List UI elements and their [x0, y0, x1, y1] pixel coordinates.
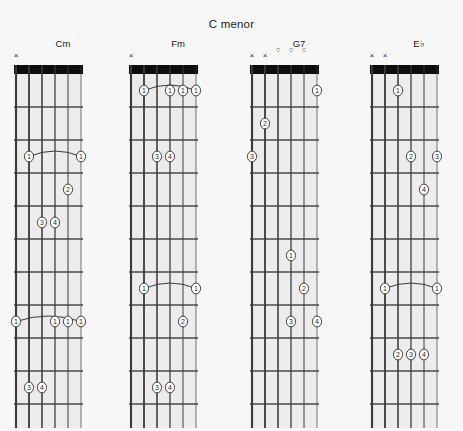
- finger-number: 3: [435, 153, 439, 160]
- finger-number: 1: [142, 285, 146, 292]
- chord-name-label: Fm: [123, 38, 233, 49]
- fretboard: 11234111134: [8, 64, 118, 428]
- finger-number: 1: [53, 318, 57, 325]
- finger-number: 1: [142, 87, 146, 94]
- string-state-markers: ×: [123, 51, 233, 65]
- finger-number: 4: [422, 351, 426, 358]
- finger-number: 4: [168, 384, 172, 391]
- chord-diagram: Cm×11234111134: [8, 38, 118, 428]
- finger-number: 1: [194, 87, 198, 94]
- finger-number: 4: [422, 186, 426, 193]
- finger-number: 1: [194, 285, 198, 292]
- finger-number: 1: [168, 87, 172, 94]
- nut: [14, 65, 83, 74]
- muted-string-icon: ×: [260, 51, 270, 61]
- muted-string-icon: ×: [11, 51, 21, 61]
- finger-number: 4: [315, 318, 319, 325]
- finger-number: 1: [14, 318, 18, 325]
- finger-number: 3: [409, 351, 413, 358]
- muted-string-icon: ×: [126, 51, 136, 61]
- string-state-markers: ××○○○: [244, 51, 354, 65]
- open-string-icon: ○: [273, 45, 283, 55]
- finger-number: 2: [66, 186, 70, 193]
- open-string-icon: ○: [286, 45, 296, 55]
- finger-number: 3: [40, 219, 44, 226]
- fretboard: 123411234: [364, 64, 463, 428]
- chord-diagram: Fm×11113411234: [123, 38, 233, 428]
- finger-number: 1: [181, 87, 185, 94]
- muted-string-icon: ×: [367, 51, 377, 61]
- open-string-icon: ○: [299, 45, 309, 55]
- finger-number: 2: [302, 285, 306, 292]
- fretboard: 11113411234: [123, 64, 233, 428]
- finger-number: 2: [181, 318, 185, 325]
- nut: [370, 65, 439, 74]
- finger-number: 4: [168, 153, 172, 160]
- finger-number: 1: [66, 318, 70, 325]
- finger-number: 1: [79, 318, 83, 325]
- finger-number: 3: [155, 384, 159, 391]
- nut: [129, 65, 198, 74]
- fretboard-face: [131, 74, 196, 428]
- string-state-markers: ××: [364, 51, 463, 65]
- nut: [250, 65, 319, 74]
- finger-number: 1: [435, 285, 439, 292]
- finger-number: 3: [250, 153, 254, 160]
- finger-number: 3: [289, 318, 293, 325]
- fretboard: 1231234: [244, 64, 354, 428]
- chord-diagram: E♭××123411234: [364, 38, 463, 428]
- fretboard-face: [16, 74, 81, 428]
- finger-number: 2: [409, 153, 413, 160]
- string-state-markers: ×: [8, 51, 118, 65]
- finger-number: 3: [155, 153, 159, 160]
- muted-string-icon: ×: [247, 51, 257, 61]
- finger-number: 1: [27, 153, 31, 160]
- finger-number: 1: [79, 153, 83, 160]
- finger-number: 1: [315, 87, 319, 94]
- finger-number: 1: [383, 285, 387, 292]
- finger-number: 4: [53, 219, 57, 226]
- finger-number: 2: [263, 120, 267, 127]
- finger-number: 2: [396, 351, 400, 358]
- muted-string-icon: ×: [380, 51, 390, 61]
- chord-chart-page: C menor Cm×11234111134Fm×11113411234G7××…: [0, 0, 463, 431]
- finger-number: 4: [40, 384, 44, 391]
- finger-number: 1: [289, 252, 293, 259]
- chord-diagram: G7××○○○1231234: [244, 38, 354, 428]
- finger-number: 3: [27, 384, 31, 391]
- fretboard-face: [372, 74, 437, 428]
- chord-name-label: Cm: [8, 38, 118, 49]
- chord-name-label: E♭: [364, 38, 463, 49]
- finger-number: 1: [396, 87, 400, 94]
- page-title: C menor: [0, 18, 463, 30]
